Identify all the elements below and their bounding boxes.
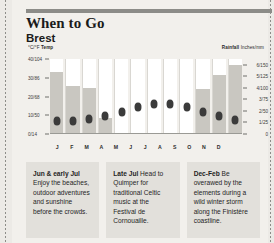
note-dec-feb: Dec-Feb Be overawed by the elements duri… <box>187 162 260 238</box>
left-tick-label: 0/14 <box>28 132 37 137</box>
month-label: D <box>211 144 226 154</box>
temperature-dot <box>151 100 158 109</box>
month-label: J <box>123 144 138 154</box>
month-label: A <box>94 144 109 154</box>
chart-column <box>50 59 63 134</box>
left-tick-mark <box>45 115 49 116</box>
temperature-dot <box>102 112 109 121</box>
axis-baseline <box>50 133 242 134</box>
right-axis-units: Inches/mm <box>241 45 264 50</box>
notes-row: Jun & early Jul Enjoy the beaches, outdo… <box>26 162 260 238</box>
temperature-dot <box>134 102 141 111</box>
note-late-jul: Late Jul Head to Quimper for traditional… <box>106 162 179 238</box>
chart-column <box>82 59 96 134</box>
right-axis-title: Rainfall Inches/mm <box>222 45 264 50</box>
chart-column <box>163 59 177 134</box>
chart-column <box>212 59 226 134</box>
month-label: J <box>50 144 65 154</box>
temperature-dot <box>183 102 190 111</box>
rainfall-bar <box>213 75 226 134</box>
temperature-dot <box>118 107 125 116</box>
month-label: F <box>65 144 80 154</box>
month-label: M <box>79 144 94 154</box>
note-jun-early-jul: Jun & early Jul Enjoy the beaches, outdo… <box>26 162 99 238</box>
chart-column <box>114 59 128 134</box>
month-label: S <box>167 144 182 154</box>
chart-column <box>65 59 79 134</box>
chart-column <box>228 59 242 134</box>
right-tick-mark <box>243 64 247 65</box>
right-tick-label: 1/25 <box>259 120 268 125</box>
right-tick-label: 0 <box>265 132 268 137</box>
note-body: Be overawed by the elements during a wil… <box>194 170 248 224</box>
rainfall-bar <box>66 86 79 134</box>
temperature-dot <box>86 115 93 124</box>
right-tick-label: 5/125 <box>257 74 269 79</box>
temperature-dot <box>216 112 223 121</box>
month-label: N <box>197 144 212 154</box>
right-tick-mark <box>243 87 247 88</box>
note-lead: Dec-Feb <box>194 170 220 177</box>
right-tick-mark <box>243 122 247 123</box>
left-axis-title: °C/°F Temp <box>28 45 53 50</box>
temperature-dot <box>232 115 239 124</box>
right-tick-label: 2/50 <box>259 108 268 113</box>
left-tick-mark <box>45 96 49 97</box>
left-margin-rule <box>5 0 6 243</box>
rainfall-bar <box>83 88 96 134</box>
right-tick-label: 6/150 <box>257 62 269 67</box>
chart-columns <box>50 59 242 134</box>
temperature-dot <box>69 116 76 125</box>
page-root: When to Go Brest °C/°F Temp Rainfall Inc… <box>0 0 274 243</box>
left-axis-units: °C/°F <box>28 45 40 50</box>
month-label: J <box>138 144 153 154</box>
right-tick-mark <box>243 76 247 77</box>
left-tick-label: 40/104 <box>28 57 42 62</box>
left-tick-mark <box>45 134 49 135</box>
note-lead: Late Jul <box>113 170 138 177</box>
chart-column <box>130 59 144 134</box>
temperature-dot <box>53 116 60 125</box>
month-axis: JFMAMJJASOND <box>50 144 226 154</box>
note-body: Enjoy the beaches, outdoor adventures an… <box>33 179 90 214</box>
right-tick-mark <box>243 134 247 135</box>
temperature-dot <box>199 107 206 116</box>
left-tick-label: 20/68 <box>28 94 40 99</box>
left-axis-name: Temp <box>41 45 53 50</box>
right-tick-mark <box>243 110 247 111</box>
left-tick-mark <box>45 59 49 60</box>
chart-column <box>98 59 112 134</box>
left-tick-label: 10/50 <box>28 113 40 118</box>
chart-column <box>147 59 161 134</box>
month-label: O <box>182 144 197 154</box>
chart-column <box>179 59 193 134</box>
right-tick-mark <box>243 99 247 100</box>
climate-chart: 40/10430/8620/6810/500/14 6/1505/1254/10… <box>28 55 268 143</box>
chart-column <box>195 59 209 134</box>
temperature-dot <box>167 100 174 109</box>
page-subtitle: Brest <box>26 32 55 45</box>
page-title: When to Go <box>26 15 105 32</box>
left-tick-label: 30/86 <box>28 75 40 80</box>
right-tick-label: 3/75 <box>259 97 268 102</box>
month-label: A <box>153 144 168 154</box>
right-tick-label: 4/100 <box>257 85 269 90</box>
month-label: M <box>109 144 124 154</box>
header-rule <box>26 9 272 13</box>
note-body: Head to Quimper for traditional Celtic m… <box>113 170 163 224</box>
note-lead: Jun & early Jul <box>33 170 80 177</box>
left-tick-mark <box>45 77 49 78</box>
right-margin-rule <box>270 0 271 243</box>
plot-area <box>50 59 242 134</box>
right-axis-name: Rainfall <box>222 45 239 50</box>
content-panel: When to Go Brest °C/°F Temp Rainfall Inc… <box>12 0 268 243</box>
